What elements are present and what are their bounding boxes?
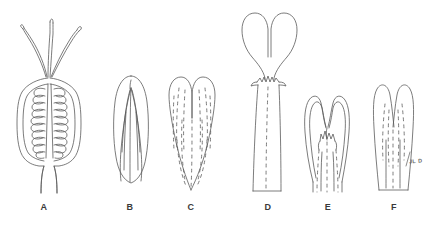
figure-d-drawing: [242, 13, 297, 191]
figure-d-sheath-right: [279, 85, 281, 191]
figure-d-sheath-midline: [266, 87, 268, 189]
figure-f-outline-right: [393, 85, 414, 190]
figure-label-a: A: [41, 202, 48, 212]
figure-label-d: D: [265, 202, 272, 212]
figure-e-inner-line-left: [317, 150, 319, 192]
figure-d-ligule-wing-right: [279, 82, 286, 86]
figure-c-outline-right: [191, 77, 215, 190]
figure-a-axis-right: [51, 84, 53, 158]
figure-label-b: B: [127, 202, 134, 212]
figure-f-vein-left-1: [383, 104, 385, 160]
figure-a-coils-right: [54, 88, 68, 158]
figure-e-fold-left: [321, 152, 322, 191]
figure-a-outer-wall-right: [50, 78, 81, 193]
figure-f-outline-left: [373, 85, 394, 190]
artist-signature: JL D: [409, 158, 423, 165]
figure-b-vein-left-1: [120, 88, 131, 181]
figure-label-c: C: [188, 202, 195, 212]
figure-f-vein-right-1: [402, 104, 404, 160]
figure-f-vein-right-2: [398, 110, 399, 166]
figure-e-ligule-left: [318, 141, 320, 150]
figure-a-axis-left: [46, 84, 48, 158]
figure-d-outline-left: [242, 13, 268, 80]
figure-a-coils-left: [31, 88, 45, 158]
figure-label-e: E: [325, 202, 331, 212]
figure-d-sheath-left: [253, 85, 258, 191]
figure-f-drawing: [373, 85, 413, 190]
figure-b-drawing: [114, 76, 149, 183]
figure-b-vein-right-2: [132, 90, 140, 152]
figure-d-ligule-wing-left: [251, 82, 258, 86]
figure-e-ligule-teeth: [320, 131, 335, 141]
figure-e-fold-right: [333, 152, 334, 191]
figure-label-f: F: [391, 202, 397, 212]
figure-c-midline: [191, 120, 192, 188]
figure-b-vein-right-1: [131, 88, 142, 181]
figure-d-ligule-teeth: [257, 76, 279, 82]
figure-b-midrib: [130, 88, 131, 182]
figure-c-outline-left: [169, 77, 192, 190]
figure-e-drawing: [305, 96, 350, 192]
figure-a-styles: [21, 19, 82, 77]
plate-drawing: [0, 0, 442, 235]
figure-e-ligule-right: [335, 141, 337, 150]
figure-b-vein-left-2: [122, 90, 130, 152]
figure-d-outline-right: [271, 13, 297, 80]
figure-c-drawing: [169, 77, 215, 190]
figure-f-vein-left-2: [388, 110, 389, 166]
figure-a-drawing: [17, 19, 81, 193]
botanical-plate: A B C D E F JL D: [0, 0, 442, 235]
figure-e-inner-line-right: [336, 150, 338, 192]
figure-e-sinus-line: [326, 128, 327, 140]
